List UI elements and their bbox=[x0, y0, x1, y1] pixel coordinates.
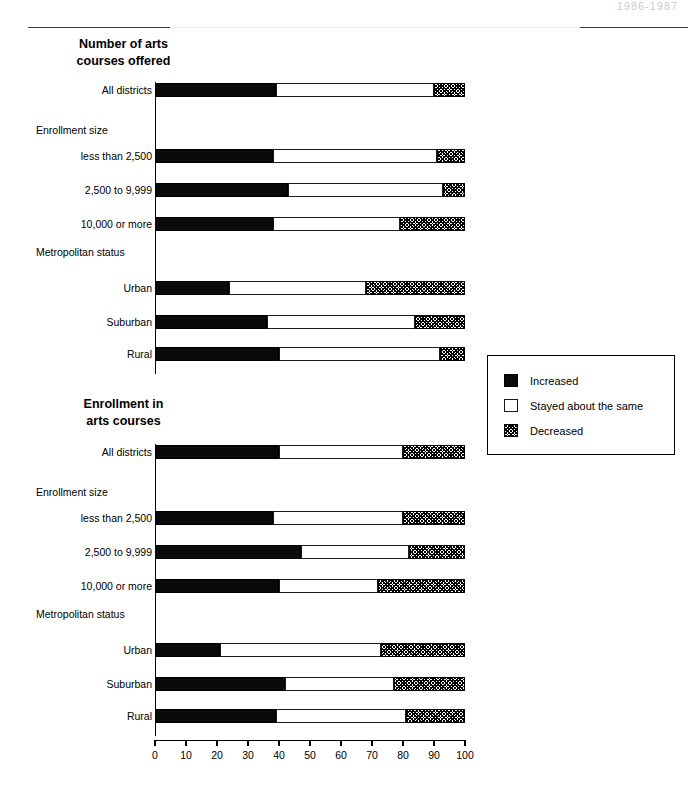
legend-swatch-decreased-icon bbox=[504, 424, 518, 437]
bar-segment-decreased bbox=[415, 315, 465, 329]
chart-2-title: Enrollment in arts courses bbox=[36, 396, 211, 430]
row-label: less than 2,500 bbox=[0, 148, 152, 164]
bar-segment-decreased bbox=[406, 709, 465, 723]
chart-row: Suburban bbox=[0, 676, 696, 692]
bar-segment-stayed-same bbox=[285, 677, 394, 691]
bar-segment-increased bbox=[155, 545, 301, 559]
x-axis-tick bbox=[247, 740, 248, 746]
bar-segment-decreased bbox=[394, 677, 465, 691]
group-label: Enrollment size bbox=[36, 122, 266, 138]
bar-segment-decreased bbox=[409, 545, 465, 559]
header-year-range: 1986-1987 bbox=[617, 0, 678, 12]
bar-segment-decreased bbox=[381, 643, 465, 657]
row-label: 10,000 or more bbox=[0, 216, 152, 232]
stacked-bar bbox=[155, 643, 465, 657]
bar-segment-increased bbox=[155, 83, 276, 97]
bar-segment-decreased bbox=[440, 347, 465, 361]
group-label: Metropolitan status bbox=[36, 606, 266, 622]
stacked-bar bbox=[155, 347, 465, 361]
bar-segment-increased bbox=[155, 149, 273, 163]
chart-row: Suburban bbox=[0, 314, 696, 330]
chart-group-heading: Metropolitan status bbox=[0, 606, 696, 622]
stacked-bar bbox=[155, 217, 465, 231]
chart-row: 2,500 to 9,999 bbox=[0, 182, 696, 198]
bar-segment-stayed-same bbox=[273, 149, 437, 163]
group-label: Enrollment size bbox=[36, 484, 266, 500]
chart-enrollment-in-arts-courses: Enrollment in arts courses All districts… bbox=[0, 396, 696, 796]
legend-label: Increased bbox=[530, 374, 578, 388]
bar-segment-stayed-same bbox=[267, 315, 416, 329]
chart-row: 10,000 or more bbox=[0, 578, 696, 594]
bar-segment-stayed-same bbox=[229, 281, 365, 295]
bar-segment-increased bbox=[155, 315, 267, 329]
x-axis-tick bbox=[402, 740, 403, 746]
legend: IncreasedStayed about the sameDecreased bbox=[487, 355, 675, 455]
row-label: less than 2,500 bbox=[0, 510, 152, 526]
row-label: Urban bbox=[0, 642, 152, 658]
x-axis-tick bbox=[278, 740, 279, 746]
chart-row: less than 2,500 bbox=[0, 148, 696, 164]
row-label: Urban bbox=[0, 280, 152, 296]
chart-row: 10,000 or more bbox=[0, 216, 696, 232]
row-label: 10,000 or more bbox=[0, 578, 152, 594]
bar-segment-increased bbox=[155, 445, 279, 459]
legend-label: Decreased bbox=[530, 424, 583, 438]
stacked-bar bbox=[155, 315, 465, 329]
bar-segment-decreased bbox=[400, 217, 465, 231]
bar-segment-decreased bbox=[403, 445, 465, 459]
row-label: Suburban bbox=[0, 676, 152, 692]
row-label: All districts bbox=[0, 444, 152, 460]
bar-segment-increased bbox=[155, 709, 276, 723]
chart-row: Urban bbox=[0, 280, 696, 296]
bar-segment-increased bbox=[155, 183, 288, 197]
row-label: 2,500 to 9,999 bbox=[0, 544, 152, 560]
chart-number-of-arts-courses-offered: Number of arts courses offered All distr… bbox=[0, 34, 696, 374]
chart-group-heading: Enrollment size bbox=[0, 122, 696, 138]
stacked-bar bbox=[155, 511, 465, 525]
bar-segment-stayed-same bbox=[276, 83, 434, 97]
chart-group-heading: Enrollment size bbox=[0, 484, 696, 500]
bar-segment-increased bbox=[155, 217, 273, 231]
bar-segment-increased bbox=[155, 511, 273, 525]
x-axis-tick bbox=[185, 740, 186, 746]
bar-segment-stayed-same bbox=[301, 545, 410, 559]
stacked-bar bbox=[155, 445, 465, 459]
bar-segment-stayed-same bbox=[288, 183, 443, 197]
stacked-bar bbox=[155, 677, 465, 691]
bar-segment-decreased bbox=[378, 579, 465, 593]
row-label: Suburban bbox=[0, 314, 152, 330]
stacked-bar bbox=[155, 149, 465, 163]
bar-segment-increased bbox=[155, 347, 279, 361]
bar-segment-decreased bbox=[437, 149, 465, 163]
stacked-bar bbox=[155, 579, 465, 593]
row-label: All districts bbox=[0, 82, 152, 98]
stacked-bar bbox=[155, 281, 465, 295]
stacked-bar bbox=[155, 83, 465, 97]
chart-row: 2,500 to 9,999 bbox=[0, 544, 696, 560]
stacked-bar bbox=[155, 183, 465, 197]
row-label: Rural bbox=[0, 346, 152, 362]
bar-segment-stayed-same bbox=[220, 643, 381, 657]
bar-segment-stayed-same bbox=[273, 217, 400, 231]
x-axis-tick bbox=[371, 740, 372, 746]
bar-segment-stayed-same bbox=[276, 709, 406, 723]
bar-segment-increased bbox=[155, 643, 220, 657]
legend-swatch-same-icon bbox=[504, 399, 518, 412]
bar-segment-stayed-same bbox=[273, 511, 403, 525]
bar-segment-decreased bbox=[443, 183, 465, 197]
x-axis-tick bbox=[433, 740, 434, 746]
chart-group-heading: Metropolitan status bbox=[0, 244, 696, 260]
chart-row: less than 2,500 bbox=[0, 510, 696, 526]
x-axis-tick bbox=[464, 740, 465, 746]
bar-segment-increased bbox=[155, 677, 285, 691]
legend-swatch-increased-icon bbox=[504, 374, 518, 387]
x-axis-tick bbox=[154, 740, 155, 746]
x-axis-tick bbox=[309, 740, 310, 746]
chart-row: All districts bbox=[0, 82, 696, 98]
row-label: 2,500 to 9,999 bbox=[0, 182, 152, 198]
bar-segment-stayed-same bbox=[279, 445, 403, 459]
legend-label: Stayed about the same bbox=[530, 399, 643, 413]
chart-row: Rural bbox=[0, 708, 696, 724]
x-axis-tick-label: 100 bbox=[445, 749, 485, 761]
bar-segment-stayed-same bbox=[279, 347, 440, 361]
